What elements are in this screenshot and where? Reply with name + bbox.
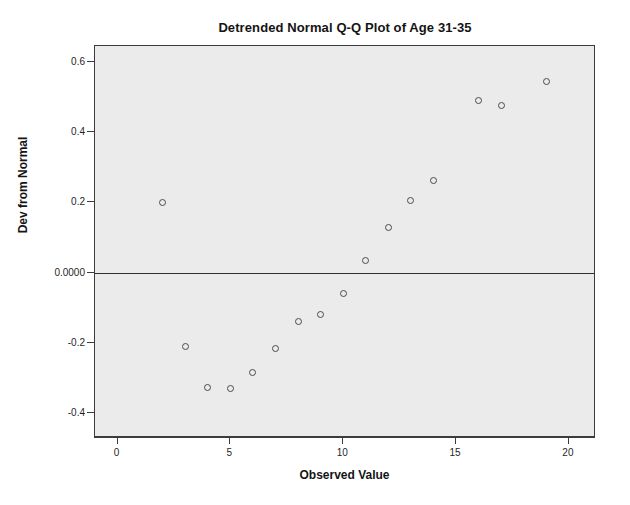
x-axis-tick-label: 20	[548, 447, 588, 458]
y-axis-tick-label: 0.4	[0, 126, 85, 137]
y-axis-tick-label: -0.4	[0, 407, 85, 418]
data-point	[340, 290, 347, 297]
x-axis-tick	[229, 437, 230, 444]
data-point	[475, 97, 482, 104]
x-axis-spine	[94, 437, 595, 438]
data-point	[272, 345, 279, 352]
y-axis-tick	[87, 131, 94, 132]
y-axis-tick-label: -0.2	[0, 337, 85, 348]
x-axis-title: Observed Value	[94, 468, 595, 482]
y-axis-tick	[87, 412, 94, 413]
y-axis-tick	[87, 342, 94, 343]
data-point	[430, 177, 437, 184]
x-axis-tick-label: 5	[209, 447, 249, 458]
x-axis-tick	[455, 437, 456, 444]
x-axis-tick	[117, 437, 118, 444]
x-axis-tick-label: 10	[322, 447, 362, 458]
y-axis-tick-label: 0.0000	[0, 266, 85, 277]
y-axis-tick-label: 0.2	[0, 196, 85, 207]
data-point	[159, 199, 166, 206]
data-point	[385, 224, 392, 231]
data-point	[227, 385, 234, 392]
x-axis-tick	[568, 437, 569, 444]
data-point	[407, 197, 414, 204]
y-axis-title: Dev from Normal	[16, 95, 30, 275]
chart-figure: Detrended Normal Q-Q Plot of Age 31-35 D…	[0, 0, 630, 505]
y-axis-tick	[87, 61, 94, 62]
data-point	[543, 78, 550, 85]
x-axis-tick	[342, 437, 343, 444]
data-point	[204, 384, 211, 391]
plot-area[interactable]	[94, 45, 595, 437]
data-point	[182, 343, 189, 350]
zero-reference-line	[95, 273, 594, 274]
y-axis-tick-label: 0.6	[0, 55, 85, 66]
chart-title: Detrended Normal Q-Q Plot of Age 31-35	[94, 20, 596, 35]
data-point	[249, 369, 256, 376]
data-point	[362, 257, 369, 264]
data-point	[295, 318, 302, 325]
x-axis-tick-label: 0	[97, 447, 137, 458]
data-point	[317, 311, 324, 318]
y-axis-tick	[87, 272, 94, 273]
y-axis-tick	[87, 201, 94, 202]
data-point	[498, 102, 505, 109]
x-axis-tick-label: 15	[435, 447, 475, 458]
